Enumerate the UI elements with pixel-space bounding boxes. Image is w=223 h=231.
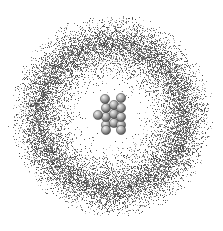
nucleon-sphere xyxy=(116,125,125,134)
nucleon-sphere xyxy=(116,103,125,112)
nucleon-sphere xyxy=(116,112,125,121)
nucleon-sphere xyxy=(116,93,125,102)
nucleus xyxy=(0,0,223,231)
atom-diagram: Atom model: nucleus with electron cloud xyxy=(0,0,223,231)
nucleon-sphere xyxy=(100,94,109,103)
nucleon-sphere xyxy=(101,125,110,134)
nucleon-sphere xyxy=(93,110,102,119)
